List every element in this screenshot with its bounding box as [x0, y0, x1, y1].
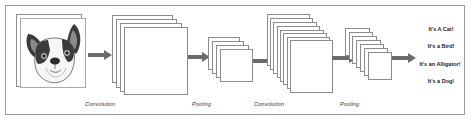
output-label-cat: It's A Cat!: [428, 26, 453, 32]
output-label-dog: It's a Dog!: [428, 78, 454, 84]
arrow-conv1-to-pool1: [188, 52, 210, 62]
french-bulldog-face-icon: [22, 20, 84, 86]
output-label-bird: It's a Bird!: [428, 43, 455, 49]
arrow-pool2-to-outputs: [392, 53, 416, 63]
stage-label-pool1: Pooling: [192, 101, 211, 107]
stage-label-conv2: Convolution: [254, 101, 284, 107]
feature-map: [290, 40, 333, 93]
feature-map: [124, 27, 188, 95]
stage-label-pool2: Pooling: [340, 101, 359, 107]
feature-map: [368, 52, 392, 80]
output-label-alligator: It's an Alligator!: [419, 61, 460, 67]
stage-label-conv1: Convolution: [85, 101, 115, 107]
arrow-input-to-conv1: [88, 50, 112, 60]
feature-map: [220, 49, 253, 82]
